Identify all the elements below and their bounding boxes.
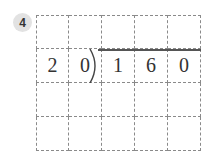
- grid-cell[interactable]: [36, 83, 69, 117]
- grid-cell[interactable]: [168, 83, 201, 117]
- dividend-digit: 0: [168, 49, 201, 83]
- problem-number-badge: 4: [13, 13, 32, 32]
- dividend-digit: 6: [135, 49, 168, 83]
- quotient-cell[interactable]: [168, 15, 201, 49]
- quotient-cell[interactable]: [135, 15, 168, 49]
- grid-cell[interactable]: [135, 117, 168, 151]
- division-vinculum: [98, 49, 201, 51]
- grid-cell[interactable]: [69, 15, 102, 49]
- grid-cell[interactable]: [102, 117, 135, 151]
- grid-cell[interactable]: [36, 117, 69, 151]
- grid-cell[interactable]: [36, 15, 69, 49]
- quotient-cell[interactable]: [102, 15, 135, 49]
- division-bracket-icon: [88, 49, 100, 83]
- divisor-digit: 2: [36, 49, 69, 83]
- grid-cell[interactable]: [135, 83, 168, 117]
- grid-cell[interactable]: [69, 117, 102, 151]
- grid-cell[interactable]: [102, 83, 135, 117]
- dividend-digit: 1: [102, 49, 135, 83]
- division-grid: 2 0 1 6 0: [36, 15, 201, 151]
- grid-cell[interactable]: [69, 83, 102, 117]
- grid-cell[interactable]: [168, 117, 201, 151]
